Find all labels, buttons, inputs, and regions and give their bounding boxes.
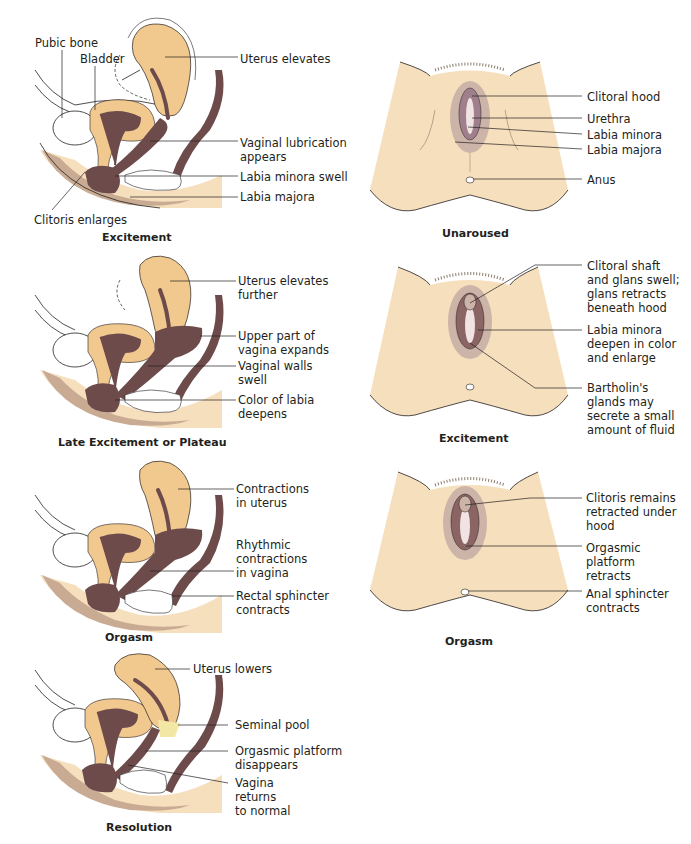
sagittal-panel-excitement: Pubic bone Bladder Uterus elevates Vagin…: [0, 0, 350, 240]
label-rectal-sphincter: Rectal sphincter contracts: [236, 589, 329, 617]
label-clitoral-hood: Clitoral hood: [587, 90, 660, 104]
label-bartholins-glands: Bartholin's glands may secrete a small a…: [587, 381, 675, 437]
label-anal-sphincter: Anal sphincter contracts: [586, 587, 669, 615]
label-uterus-lowers: Uterus lowers: [193, 662, 272, 676]
label-anus: Anus: [587, 173, 615, 187]
caption-excitement-sagittal: Excitement: [102, 231, 172, 244]
label-clitoris-enlarges: Clitoris enlarges: [34, 213, 127, 227]
label-labia-minora-deepen: Labia minora deepen in color and enlarge: [587, 323, 676, 365]
label-labia-minora: Labia minora swell: [240, 170, 348, 184]
label-contractions-uterus: Contractions in uterus: [236, 482, 309, 510]
label-clitoris-retracted: Clitoris remains retracted under hood: [586, 491, 676, 533]
caption-orgasm-sagittal: Orgasm: [105, 631, 153, 644]
label-uterus-elevates-further: Uterus elevates further: [238, 274, 328, 302]
sagittal-panel-resolution: Uterus lowers Seminal pool Orgasmic plat…: [0, 645, 350, 844]
label-vaginal-lubrication: Vaginal lubrication appears: [240, 136, 347, 164]
label-orgasmic-platform-disappears: Orgasmic platform disappears: [235, 744, 342, 772]
label-clitoral-shaft-swell: Clitoral shaft and glans swell; glans re…: [587, 259, 680, 315]
label-labia-majora: Labia majora: [240, 190, 315, 204]
label-pubic-bone: Pubic bone: [35, 36, 98, 50]
label-labia-minora: Labia minora: [587, 128, 662, 142]
caption-orgasm-external: Orgasm: [445, 635, 493, 648]
label-upper-vagina-expands: Upper part of vagina expands: [238, 329, 329, 357]
external-panel-unaroused: Clitoral hood Urethra Labia minora Labia…: [350, 40, 691, 260]
label-orgasmic-platform-retracts: Orgasmic platform retracts: [586, 541, 641, 583]
caption-resolution: Resolution: [106, 821, 172, 834]
label-vagina-returns: Vagina returns to normal: [235, 776, 291, 818]
label-labia-color-deepens: Color of labia deepens: [238, 393, 314, 421]
label-uterus-elevates: Uterus elevates: [240, 52, 330, 66]
caption-plateau: Late Excitement or Plateau: [58, 436, 226, 449]
caption-excitement-external: Excitement: [439, 432, 509, 445]
external-panel-excitement: Clitoral shaft and glans swell; glans re…: [350, 255, 691, 455]
label-urethra: Urethra: [587, 112, 631, 126]
sagittal-panel-orgasm: Contractions in uterus Rhythmic contract…: [0, 455, 350, 645]
label-seminal-pool: Seminal pool: [235, 718, 310, 732]
label-vaginal-walls-swell: Vaginal walls swell: [238, 359, 313, 387]
caption-unaroused: Unaroused: [442, 227, 509, 240]
label-rhythmic-contractions: Rhythmic contractions in vagina: [236, 538, 307, 580]
label-bladder: Bladder: [80, 52, 125, 66]
label-labia-majora: Labia majora: [587, 143, 662, 157]
sagittal-panel-plateau: Uterus elevates further Upper part of va…: [0, 250, 350, 450]
external-panel-orgasm: Clitoris remains retracted under hood Or…: [350, 460, 691, 650]
